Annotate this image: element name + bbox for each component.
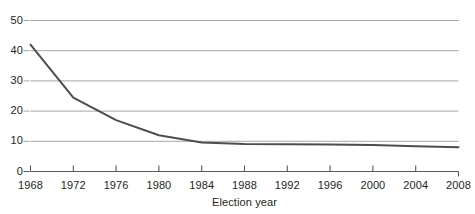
x-tick-label: 1992 xyxy=(267,180,307,191)
y-tick-label: 30 xyxy=(1,75,23,86)
y-tick-dashes xyxy=(24,21,30,172)
x-tick-label: 1988 xyxy=(225,180,265,191)
x-tick-label: 1976 xyxy=(96,180,136,191)
y-tick-label: 20 xyxy=(1,105,23,116)
x-tick-label: 2008 xyxy=(439,180,475,191)
x-tick-label: 1972 xyxy=(53,180,93,191)
line-chart: 01020304050 1968197219761980198419881992… xyxy=(0,0,475,214)
x-tick-label: 2000 xyxy=(353,180,393,191)
y-tick-label: 40 xyxy=(1,45,23,56)
y-tick-label: 10 xyxy=(1,135,23,146)
x-axis-title: Election year xyxy=(11,196,475,208)
gridlines xyxy=(31,21,459,142)
x-tick-label: 1968 xyxy=(11,180,51,191)
x-tick-label: 1980 xyxy=(139,180,179,191)
y-tick-label: 0 xyxy=(1,166,23,177)
x-tick-label: 1996 xyxy=(310,180,350,191)
x-tick-label: 2004 xyxy=(396,180,436,191)
data-series-line xyxy=(31,45,459,148)
y-tick-label: 50 xyxy=(1,15,23,26)
x-tick-label: 1984 xyxy=(182,180,222,191)
